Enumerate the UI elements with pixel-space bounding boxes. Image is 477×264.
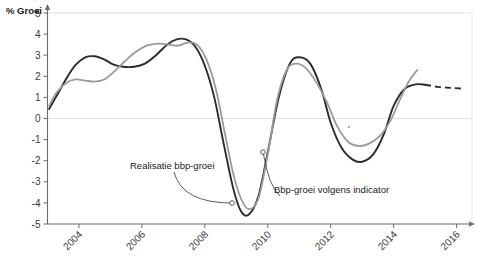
annotation-leader-line <box>174 172 232 203</box>
y-tick-label: -3 <box>32 176 41 187</box>
x-tick-label: 2014 <box>376 228 400 252</box>
gridlines <box>48 13 473 119</box>
x-tick-label: 2008 <box>187 228 211 252</box>
annotation-anchor-dot <box>261 150 266 155</box>
tick-marks <box>44 13 457 228</box>
x-tick-label: 2010 <box>250 228 274 252</box>
y-tick-label: -4 <box>32 198 41 209</box>
growth-line-chart: 543210-1-2-3-4-5 20042006200820102012201… <box>0 0 477 264</box>
y-tick-label: 4 <box>35 29 41 40</box>
annotation-label: Realisatie bbp-groei <box>130 160 215 171</box>
chart-container: 543210-1-2-3-4-5 20042006200820102012201… <box>0 0 477 264</box>
y-tick-label: -1 <box>32 134 41 145</box>
x-tick-label: 2004 <box>61 228 85 252</box>
annotation-label: Bbp-groei volgens indicator <box>274 184 389 195</box>
y-tick-labels: 543210-1-2-3-4-5 <box>32 8 41 230</box>
annotation-anchor-dot <box>230 201 235 206</box>
y-axis-title: % Groei <box>6 5 42 16</box>
x-tick-labels: 2004200620082010201220142016 <box>61 228 462 252</box>
y-tick-label: 2 <box>35 71 41 82</box>
x-tick-label: 2016 <box>438 228 462 252</box>
y-axis-arrow <box>45 4 50 10</box>
data-series <box>49 39 463 216</box>
x-tick-label: 2006 <box>124 228 148 252</box>
y-tick-label: 1 <box>35 92 41 103</box>
x-tick-label: 2012 <box>313 228 337 252</box>
y-tick-label: 3 <box>35 50 41 61</box>
y-tick-label: 0 <box>35 113 41 124</box>
series-line-forecast <box>425 85 463 89</box>
y-tick-label: -2 <box>32 155 41 166</box>
y-tick-label: -5 <box>32 219 41 230</box>
stray-speck <box>348 126 350 128</box>
